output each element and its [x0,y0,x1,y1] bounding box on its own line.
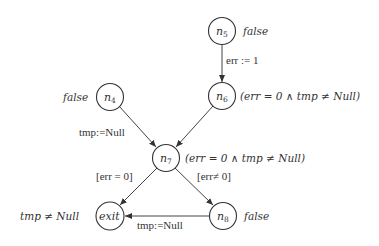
node-n7-label: n [160,152,167,165]
node-n5-label: n [216,25,223,38]
node-n7-annotation: (err = 0 ∧ tmp ≠ Null) [185,152,305,164]
node-n5: n5 [209,18,236,45]
node-n7: n7 [153,145,180,172]
node-n6-annotation: (err = 0 ∧ tmp ≠ Null) [240,90,360,102]
node-n4-label: n [104,91,111,104]
edge-label-n4-n7: tmp:=Null [79,126,125,138]
edge-label-n7-exit: [err = 0] [96,170,133,182]
node-n8-label: n [217,210,224,223]
node-n4-annotation: false [62,91,88,103]
control-flow-graph: err := 1 tmp:=Null [err = 0] [err≠ 0] tm… [0,0,379,246]
node-n4: n4 [97,84,124,111]
node-exit-label: exit [99,210,120,223]
edge-label-n7-n8: [err≠ 0] [197,170,231,182]
node-n8-annotation: false [243,210,269,222]
node-exit-annotation: tmp ≠ Null [20,210,79,222]
edge-label-n5-n6: err := 1 [226,54,258,66]
edge-n6-n7 [176,106,213,147]
node-n6-label: n [216,90,223,103]
node-n5-annotation: false [242,25,268,37]
node-n6: n6 [209,83,236,110]
edge-label-n8-exit: tmp:=Null [137,219,183,231]
node-exit: exit [96,202,124,230]
node-n8: n8 [210,203,237,230]
